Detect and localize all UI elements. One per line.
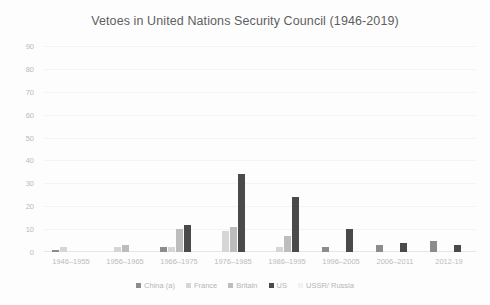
bar-group [44,46,98,252]
y-axis: 0102030405060708090 [0,46,40,252]
y-axis-tick-30: 30 [0,179,34,188]
bar-group [98,46,152,252]
y-axis-tick-40: 40 [0,156,34,165]
y-axis-tick-90: 90 [0,42,34,51]
legend-swatch-icon [228,283,233,288]
bar[interactable] [168,247,175,252]
bar[interactable] [114,247,121,252]
chart-container: Vetoes in United Nations Security Counci… [0,0,490,305]
y-axis-tick-80: 80 [0,64,34,73]
legend-label: France [194,281,217,290]
x-axis-tick: 1956–1965 [98,256,152,272]
x-axis-tick: 2012-19 [422,256,476,272]
legend-swatch-icon [298,283,303,288]
chart-legend: China (a)FranceBritainUSUSSR/ Russia [0,281,490,290]
x-axis-tick: 1966–1975 [152,256,206,272]
bar[interactable] [322,247,329,252]
legend-label: China (a) [144,281,175,290]
x-axis-tick: 2006–2011 [368,256,422,272]
bar[interactable] [284,236,291,252]
bar[interactable] [430,241,437,252]
bar[interactable] [454,245,461,252]
y-axis-tick-60: 60 [0,110,34,119]
legend-swatch-icon [186,283,191,288]
bar-group [368,46,422,252]
bar[interactable] [222,231,229,252]
plot-area [44,46,476,252]
y-axis-tick-0: 0 [0,248,34,257]
x-axis: 1946–19551956–19651966–19751976–19851986… [44,256,476,272]
bar[interactable] [52,250,59,252]
x-axis-tick: 1986–1995 [260,256,314,272]
legend-item[interactable]: France [186,281,217,290]
chart-title: Vetoes in United Nations Security Counci… [0,14,490,28]
y-axis-tick-10: 10 [0,225,34,234]
y-axis-tick-70: 70 [0,87,34,96]
legend-item[interactable]: Britain [228,281,257,290]
legend-swatch-icon [269,283,274,288]
x-axis-tick: 1996–2005 [314,256,368,272]
bar-group [206,46,260,252]
y-axis-tick-50: 50 [0,133,34,142]
bar[interactable] [400,243,407,252]
bar[interactable] [160,247,167,252]
legend-label: Britain [236,281,257,290]
bar-group [422,46,476,252]
bar[interactable] [292,197,299,252]
bar[interactable] [238,174,245,252]
bar[interactable] [184,225,191,252]
bar-group [260,46,314,252]
legend-item[interactable]: US [269,281,287,290]
legend-label: USSR/ Russia [306,281,354,290]
bar[interactable] [276,247,283,252]
bar[interactable] [60,247,67,252]
x-axis-tick: 1946–1955 [44,256,98,272]
y-axis-tick-20: 20 [0,202,34,211]
bar[interactable] [122,245,129,252]
bar[interactable] [176,229,183,252]
bar-group [152,46,206,252]
bar-group [314,46,368,252]
x-axis-tick: 1976–1985 [206,256,260,272]
legend-item[interactable]: China (a) [136,281,175,290]
bar[interactable] [346,229,353,252]
legend-item[interactable]: USSR/ Russia [298,281,354,290]
bar-groups [44,46,476,252]
legend-swatch-icon [136,283,141,288]
legend-label: US [277,281,287,290]
bar[interactable] [376,245,383,252]
bar[interactable] [230,227,237,252]
